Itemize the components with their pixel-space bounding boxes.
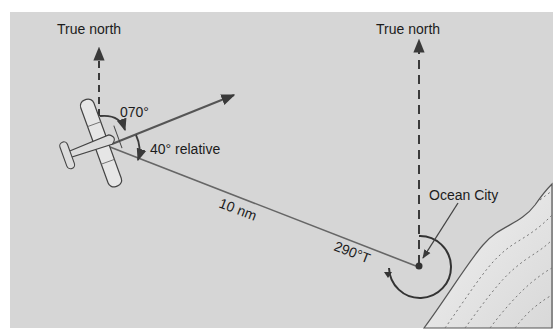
heading-label: 070°: [120, 104, 149, 120]
true-north-label-left: True north: [57, 21, 121, 37]
bearing-line: [110, 147, 416, 266]
coastline: [424, 184, 552, 328]
ocean-city-dot: [416, 263, 423, 270]
distance-label: 10 nm: [217, 195, 259, 224]
station-label: Ocean City: [429, 187, 498, 203]
navigation-bearing-diagram: True north True north 070° 40° relative …: [0, 0, 560, 332]
station-pointer: [423, 203, 458, 258]
true-north-label-right: True north: [376, 21, 440, 37]
relative-bearing-label: 40° relative: [150, 141, 220, 157]
relative-bearing-arc: [136, 135, 140, 160]
